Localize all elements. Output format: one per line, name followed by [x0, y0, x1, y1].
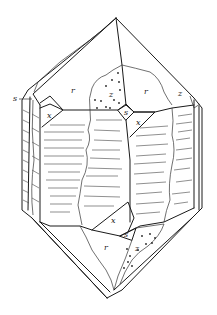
- label-x-top-left: x: [47, 111, 52, 120]
- label-x-bottom: x: [111, 216, 116, 225]
- label-s-bottom: s: [124, 230, 128, 239]
- label-z-top-center: z: [108, 90, 114, 99]
- label-z-bottom: z: [134, 244, 140, 253]
- label-r-bottom: r: [104, 243, 109, 252]
- label-r-top-right: r: [144, 87, 149, 96]
- label-r-top-left: r: [71, 86, 76, 95]
- label-z-top-right: z: [177, 89, 183, 98]
- crystal-outline: [22, 18, 202, 298]
- prism-faces: [23, 108, 192, 225]
- stipple-top-z: [94, 72, 121, 109]
- quartz-crystal-diagram: s r z r z x s x x s r z: [0, 0, 217, 315]
- label-x-top-right: x: [136, 118, 141, 127]
- label-s-top-left: s: [13, 94, 17, 103]
- top-termination: [40, 18, 200, 137]
- label-s-top-center: s: [124, 108, 128, 117]
